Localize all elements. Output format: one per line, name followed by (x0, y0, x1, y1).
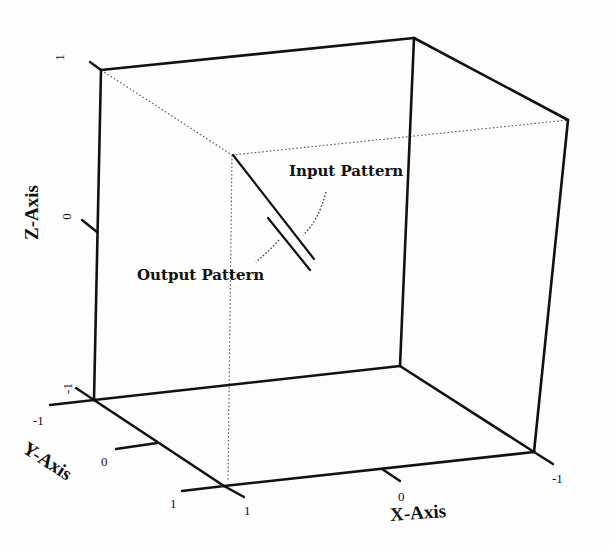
ticks (50, 62, 553, 497)
z-tick-top (90, 62, 101, 70)
y-tick-label-pos: 1 (170, 497, 177, 510)
visible-edges (94, 38, 568, 486)
x-tick-label-pos: 1 (244, 504, 251, 517)
y-tick-label-neg: -1 (33, 414, 44, 427)
edge-bottom-front-x-axis (224, 452, 534, 486)
hidden-edge-back-vertical (228, 155, 232, 480)
cube-diagram: Input Pattern Output Pattern Z-Axis 1 0 … (0, 0, 610, 550)
hidden-edge-top-back (232, 120, 568, 155)
z-tick-label-mid: 0 (60, 213, 73, 220)
y-tick-pos (182, 486, 224, 491)
edge-right-vertical (534, 120, 568, 452)
x-axis-title: X-Axis (389, 501, 446, 524)
cube-plot (0, 0, 610, 550)
edge-bottom-left-y-axis (94, 400, 224, 486)
output-pattern-label: Output Pattern (137, 268, 264, 283)
y-tick-zero (116, 443, 157, 449)
x-tick-zero (382, 469, 400, 481)
input-pattern-leader (303, 192, 326, 235)
z-tick-label-bottom: -1 (61, 383, 74, 394)
y-tick-label-zero: 0 (101, 455, 108, 468)
z-tick-mid (82, 220, 97, 232)
x-tick-label-zero: 0 (398, 490, 405, 503)
x-tick-pos (224, 486, 244, 497)
edge-left-vertical (94, 70, 101, 400)
output-pattern-leader (256, 240, 279, 262)
edge-top-right (414, 38, 568, 120)
edge-center-vertical-upper (400, 38, 414, 366)
x-tick-neg (534, 452, 553, 464)
edge-bottom-back (94, 366, 400, 400)
hidden-edge-top-diagonal (101, 70, 232, 155)
z-tick-bottom (76, 388, 94, 400)
edge-bottom-right (400, 366, 534, 452)
z-axis-title: Z-Axis (22, 185, 41, 240)
input-pattern-label: Input Pattern (289, 164, 403, 179)
x-tick-label-neg: -1 (552, 472, 563, 485)
edge-top-back (101, 38, 414, 70)
z-tick-label-top: 1 (53, 54, 66, 61)
y-tick-neg (50, 400, 94, 405)
